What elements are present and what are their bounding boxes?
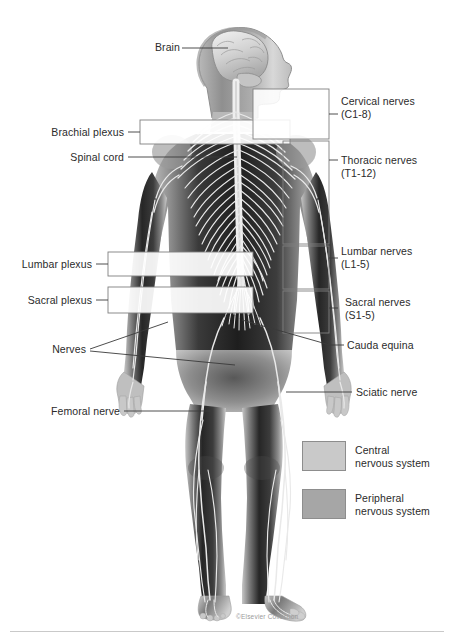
legend-label-central: Central nervous system (355, 444, 451, 469)
legend-swatch-peripheral (302, 489, 346, 519)
label-femoral-nerve: Femoral nerve (32, 405, 120, 418)
label-sacral-nerves: Sacral nerves (S1-5) (345, 296, 453, 321)
legend-swatch-central (302, 441, 346, 471)
label-cervical-nerves: Cervical nerves (C1-8) (341, 95, 449, 120)
label-brain: Brain (128, 41, 180, 54)
label-sacral-plexus: Sacral plexus (8, 294, 92, 307)
label-nerves: Nerves (38, 343, 86, 356)
label-thoracic-nerves: Thoracic nerves (T1-12) (341, 154, 449, 179)
label-lumbar-plexus: Lumbar plexus (8, 258, 92, 271)
label-lumbar-nerves: Lumbar nerves (L1-5) (341, 245, 449, 270)
label-sciatic-nerve: Sciatic nerve (356, 386, 452, 399)
bottom-divider (10, 631, 444, 632)
label-brachial-plexus: Brachial plexus (20, 126, 124, 139)
label-spinal-cord: Spinal cord (40, 151, 124, 164)
legend-label-peripheral: Peripheral nervous system (355, 492, 451, 517)
label-cauda-equina: Cauda equina (347, 339, 451, 352)
copyright-credit: ©Elsevier Collection (236, 613, 298, 620)
